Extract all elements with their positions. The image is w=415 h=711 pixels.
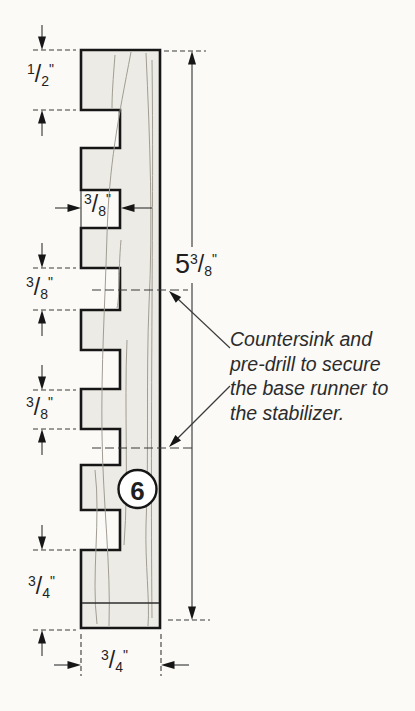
arrow-left-icon xyxy=(161,661,175,669)
arrow-right-icon xyxy=(68,661,82,669)
note-line: the stabilizer. xyxy=(230,401,412,426)
arrow-up-icon xyxy=(188,51,196,65)
arrow-up-icon xyxy=(38,429,46,443)
arrow-up-icon xyxy=(38,310,46,324)
arrow-right-icon xyxy=(68,204,82,212)
dim-label-tooth-width: 3/8" xyxy=(84,192,112,218)
arrow-up-icon xyxy=(38,110,46,124)
part-number: 6 xyxy=(124,476,151,507)
dim-label-bottom-section-height: 3/4" xyxy=(28,574,56,600)
note-text: Countersink and pre-drill to secure the … xyxy=(230,327,412,425)
dim-overall-height xyxy=(164,51,210,620)
note-line: pre-drill to secure xyxy=(230,352,412,377)
dim-label-overall-height: 53/8" xyxy=(173,250,220,279)
technical-diagram: 1/2" 3/8" 3/8" 3/8" 3/4" 3/4" 53/8" Coun… xyxy=(0,0,415,711)
note-line: the base runner to xyxy=(230,376,412,401)
dim-label-top-tooth-height: 1/2" xyxy=(27,62,55,88)
stabilizer-part xyxy=(81,50,160,628)
arrow-down-icon xyxy=(188,607,196,621)
arrow-down-icon xyxy=(38,537,46,551)
arrow-up-icon xyxy=(38,630,46,644)
arrow-down-icon xyxy=(38,255,46,269)
arrow-down-icon xyxy=(38,37,46,51)
note-leader-lines xyxy=(169,291,230,447)
dim-label-notch-height: 3/8" xyxy=(26,275,54,301)
note-line: Countersink and xyxy=(230,327,412,352)
dim-label-part-thickness: 3/4" xyxy=(101,648,129,674)
dim-label-tooth-height: 3/8" xyxy=(26,395,54,421)
arrow-down-icon xyxy=(38,377,46,391)
